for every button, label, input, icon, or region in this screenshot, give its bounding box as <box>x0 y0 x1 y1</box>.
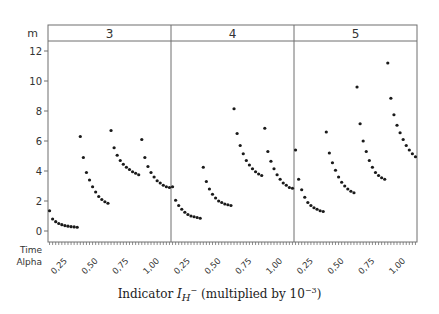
data-point <box>82 156 85 159</box>
y-tick-label: 0 <box>36 226 42 237</box>
data-point <box>116 154 119 157</box>
alpha-tick-label: 0,25 <box>49 256 69 276</box>
data-point <box>362 139 365 142</box>
data-point <box>319 209 322 212</box>
data-point <box>140 138 143 141</box>
data-point <box>106 202 109 205</box>
y-tick-label: 12 <box>29 46 42 57</box>
panel-header-label: 3 <box>106 27 114 41</box>
data-point <box>297 178 300 181</box>
data-point <box>199 217 202 220</box>
data-point <box>322 210 325 213</box>
panel-header-label: 5 <box>352 27 360 41</box>
data-point <box>405 144 408 147</box>
data-point <box>312 206 315 209</box>
data-point <box>352 191 355 194</box>
data-point <box>156 179 159 182</box>
panel-header-label: 4 <box>229 27 237 41</box>
data-point <box>229 204 232 207</box>
data-point <box>232 107 235 110</box>
y-tick-label: 2 <box>36 196 42 207</box>
data-point <box>189 214 192 217</box>
data-point <box>149 171 152 174</box>
data-point <box>398 131 401 134</box>
data-point <box>239 144 242 147</box>
data-point <box>60 223 63 226</box>
data-point <box>331 161 334 164</box>
data-point <box>272 167 275 170</box>
data-point <box>63 224 66 227</box>
data-point <box>192 215 195 218</box>
data-point <box>100 198 103 201</box>
x-axis-title: Indicator IH− (multiplied by 10−3) <box>0 286 439 303</box>
data-point <box>177 204 180 207</box>
data-point <box>285 184 288 187</box>
data-point <box>217 199 220 202</box>
data-point <box>306 201 309 204</box>
data-point <box>315 208 318 211</box>
data-point <box>408 148 411 151</box>
alpha-tick-label: 1,00 <box>141 256 161 276</box>
data-point <box>395 124 398 127</box>
data-point <box>368 159 371 162</box>
data-point <box>165 185 168 188</box>
data-point <box>162 184 165 187</box>
data-point <box>374 171 377 174</box>
alpha-tick-label: 0,75 <box>110 256 130 276</box>
data-point <box>51 217 54 220</box>
data-point <box>291 187 294 190</box>
x-row-labels: TimeAlpha <box>16 245 42 267</box>
data-point <box>85 171 88 174</box>
data-point <box>202 166 205 169</box>
data-point <box>288 186 291 189</box>
data-point <box>223 202 226 205</box>
alpha-tick-label: 1,00 <box>264 256 284 276</box>
data-point <box>257 172 260 175</box>
data-point <box>254 170 257 173</box>
data-point <box>294 148 297 151</box>
data-point <box>340 181 343 184</box>
y-axis: m024681012 <box>27 27 48 237</box>
data-point <box>91 185 94 188</box>
data-point <box>309 204 312 207</box>
data-point <box>380 176 383 179</box>
data-point <box>245 159 248 162</box>
data-point <box>152 175 155 178</box>
data-point <box>389 97 392 100</box>
data-point <box>137 173 140 176</box>
alpha-tick-label: 0,75 <box>356 256 376 276</box>
data-point <box>79 135 82 138</box>
row-label-time: Time <box>19 245 42 255</box>
alpha-tick-label: 0,50 <box>79 256 99 276</box>
data-point <box>282 181 285 184</box>
data-point <box>94 190 97 193</box>
data-point <box>303 196 306 199</box>
data-point <box>414 155 417 158</box>
data-point <box>159 181 162 184</box>
data-point <box>143 156 146 159</box>
data-point <box>131 170 134 173</box>
frame-border <box>48 25 417 242</box>
data-point <box>263 127 266 130</box>
data-point <box>205 180 208 183</box>
data-point <box>168 186 171 189</box>
row-label-alpha: Alpha <box>16 257 42 267</box>
data-point <box>171 185 174 188</box>
y-tick-label: 8 <box>36 106 42 117</box>
data-point <box>48 209 51 212</box>
data-point <box>279 178 282 181</box>
data-point <box>186 213 189 216</box>
data-point <box>269 160 272 163</box>
data-point <box>66 225 69 228</box>
data-point <box>260 174 263 177</box>
y-tick-label: 4 <box>36 166 42 177</box>
data-point <box>54 220 57 223</box>
data-point <box>180 208 183 211</box>
data-point <box>208 187 211 190</box>
data-point <box>128 168 131 171</box>
data-point <box>275 173 278 176</box>
x-axis: 0,250,500,751,000,250,500,751,000,250,50… <box>49 242 416 276</box>
alpha-tick-label: 0,75 <box>233 256 253 276</box>
alpha-tick-label: 1,00 <box>387 256 407 276</box>
data-point <box>337 175 340 178</box>
